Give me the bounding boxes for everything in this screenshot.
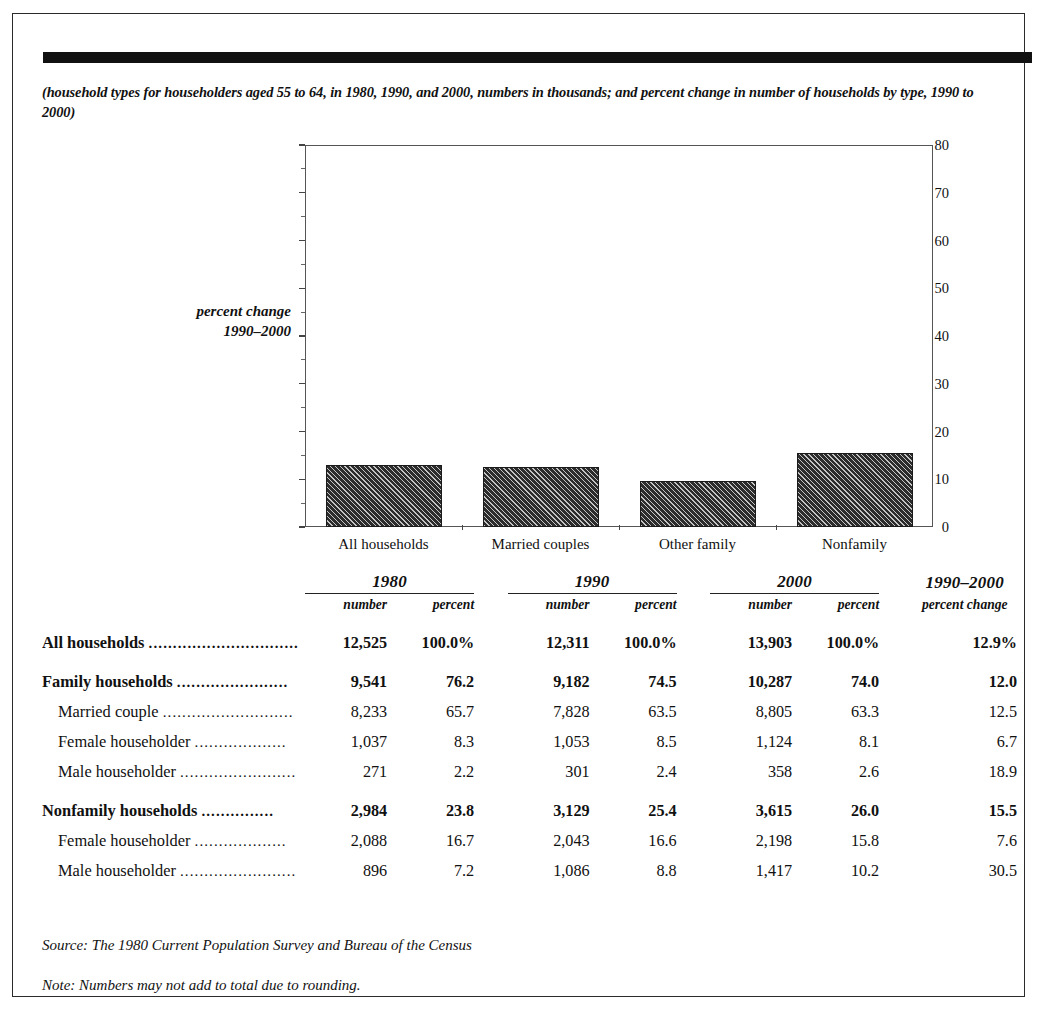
y-tick-label: 0 (913, 519, 949, 536)
cell-percent-change: 7.6 (913, 821, 1017, 851)
row-label: Married couple .........................… (42, 692, 305, 722)
y-tick-label: 60 (913, 232, 949, 249)
table-row: Female householder ...................1,… (42, 722, 1017, 752)
y-tick-minor (301, 264, 305, 265)
cell-2000-percent: 8.1 (792, 722, 879, 752)
column-gap (474, 692, 507, 722)
row-label: Female householder ................... (42, 821, 305, 851)
y-tick-label: 50 (913, 280, 949, 297)
row-label: Male householder .......................… (42, 752, 305, 782)
cell-1980-percent: 16.7 (387, 821, 474, 851)
table-row: All households .........................… (42, 623, 1017, 653)
cell-1980-number: 1,037 (305, 722, 387, 752)
row-label-text: Female householder (58, 732, 195, 751)
table-subtitle: (household types for householders aged 5… (42, 82, 1007, 122)
x-tick (462, 525, 463, 530)
row-label-text: All households (42, 633, 149, 652)
y-tick-major (299, 383, 305, 384)
y-tick-major (299, 431, 305, 432)
cell-1980-number: 2,088 (305, 821, 387, 851)
data-table-wrapper: 1980 1990 2000 1990–2000 number percent … (42, 572, 1017, 881)
column-gap (677, 623, 710, 653)
cell-1980-number: 2,984 (305, 782, 387, 821)
sub-header-blank (42, 594, 305, 624)
cell-2000-number: 1,417 (710, 851, 792, 881)
dot-leader: ....................... (177, 674, 289, 690)
row-label: Female householder ................... (42, 722, 305, 752)
column-gap (474, 752, 507, 782)
sub-header-2000-number: number (710, 594, 792, 624)
row-label: Male householder .......................… (42, 851, 305, 881)
table-body: All households .........................… (42, 623, 1017, 881)
cell-2000-percent: 15.8 (792, 821, 879, 851)
cell-2000-number: 3,615 (710, 782, 792, 821)
y-axis-title-line1: percent change (196, 303, 291, 319)
bar (797, 453, 913, 527)
cell-2000-percent: 74.0 (792, 653, 879, 692)
column-gap (474, 782, 507, 821)
content-frame: (household types for householders aged 5… (12, 13, 1025, 997)
header-rule-bar (43, 52, 1032, 63)
row-label-text: Male householder (58, 861, 180, 880)
x-tick (776, 525, 777, 530)
table-row: Nonfamily households ...............2,98… (42, 782, 1017, 821)
y-tick-minor (301, 455, 305, 456)
row-label: Nonfamily households ............... (42, 782, 305, 821)
cell-1980-number: 12,525 (305, 623, 387, 653)
y-axis-title: percent change 1990–2000 (81, 301, 291, 341)
cell-1990-percent: 63.5 (590, 692, 677, 722)
y-tick-major (299, 479, 305, 480)
dot-leader: ............... (201, 803, 274, 819)
cell-2000-percent: 26.0 (792, 782, 879, 821)
row-label-text: Nonfamily households (42, 801, 201, 820)
column-gap (474, 623, 507, 653)
y-tick-major (299, 240, 305, 241)
column-gap (879, 722, 912, 752)
sub-header-1980-number: number (305, 594, 387, 624)
y-tick-minor (301, 359, 305, 360)
group-gap-3 (879, 572, 912, 594)
cell-1980-percent: 100.0% (387, 623, 474, 653)
cell-2000-number: 2,198 (710, 821, 792, 851)
cell-1980-number: 896 (305, 851, 387, 881)
y-tick-label: 40 (913, 328, 949, 345)
x-category-label: Married couples (492, 536, 590, 553)
rounding-note: Note: Numbers may not add to total due t… (42, 977, 361, 994)
column-gap (474, 851, 507, 881)
cell-1990-percent: 100.0% (590, 623, 677, 653)
sub-gap-3 (879, 594, 912, 624)
y-tick-minor (301, 407, 305, 408)
sub-header-percent-change: percent change (913, 594, 1017, 624)
cell-percent-change: 12.9% (913, 623, 1017, 653)
table-row: Married couple .........................… (42, 692, 1017, 722)
group-header-blank (42, 572, 305, 594)
cell-2000-percent: 63.3 (792, 692, 879, 722)
cell-1990-percent: 74.5 (590, 653, 677, 692)
dot-leader: ........................ (180, 863, 296, 879)
cell-2000-number: 8,805 (710, 692, 792, 722)
dot-leader: ................... (195, 734, 287, 750)
sub-header-2000-percent: percent (792, 594, 879, 624)
x-category-label: All households (338, 536, 428, 553)
cell-1980-number: 9,541 (305, 653, 387, 692)
x-tick (619, 525, 620, 530)
column-gap (677, 821, 710, 851)
cell-1980-percent: 76.2 (387, 653, 474, 692)
y-tick-major (299, 144, 305, 145)
cell-1990-percent: 8.8 (590, 851, 677, 881)
column-gap (677, 851, 710, 881)
group-gap-1 (474, 572, 507, 594)
y-tick-label: 70 (913, 184, 949, 201)
dot-leader: ........................... (163, 704, 294, 720)
column-gap (879, 623, 912, 653)
y-tick-minor (301, 168, 305, 169)
bar (326, 465, 442, 527)
x-category-label: Other family (659, 536, 736, 553)
row-label-text: Male householder (58, 762, 180, 781)
source-note: Source: The 1980 Current Population Surv… (42, 937, 472, 954)
table-row: Male householder .......................… (42, 752, 1017, 782)
sub-header-row: number percent number percent number per… (42, 594, 1017, 624)
cell-1980-number: 8,233 (305, 692, 387, 722)
table-row: Male householder .......................… (42, 851, 1017, 881)
y-tick-minor (301, 216, 305, 217)
